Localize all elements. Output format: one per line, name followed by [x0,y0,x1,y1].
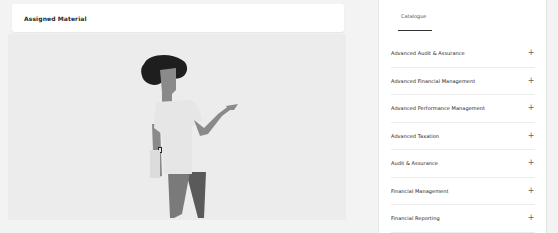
catalogue-item-financial-reporting[interactable]: Financial Reporting + [391,205,535,233]
assigned-material-header: Assigned Material [12,4,344,32]
catalogue-item-label: Financial Reporting [391,215,440,221]
page: Assigned Material [0,0,558,233]
assigned-material-title: Assigned Material [24,15,87,22]
catalogue-item-label: Advanced Performance Management [391,105,485,111]
catalogue-item-label: Advanced Taxation [391,133,439,139]
catalogue-item-label: Advanced Audit & Assurance [391,50,465,56]
plus-icon[interactable]: + [527,104,535,112]
catalogue-list: Advanced Audit & Assurance + Advanced Fi… [379,40,546,233]
catalogue-item-audit-assurance[interactable]: Audit & Assurance + [391,150,535,178]
tab-catalogue[interactable]: Catalogue [401,13,426,19]
catalogue-item-advanced-performance-management[interactable]: Advanced Performance Management + [391,95,535,123]
catalogue-item-advanced-financial-management[interactable]: Advanced Financial Management + [391,68,535,96]
catalogue-item-label: Audit & Assurance [391,160,438,166]
catalogue-tabs: Catalogue [379,0,546,40]
catalogue-panel: Catalogue Advanced Audit & Assurance + A… [378,0,547,233]
plus-icon[interactable]: + [527,77,535,85]
plus-icon[interactable]: + [527,214,535,222]
catalogue-item-label: Advanced Financial Management [391,78,475,84]
active-tab-indicator [398,30,432,31]
catalogue-item-financial-management[interactable]: Financial Management + [391,178,535,206]
catalogue-item-label: Financial Management [391,188,448,194]
catalogue-item-advanced-taxation[interactable]: Advanced Taxation + [391,123,535,151]
plus-icon[interactable]: + [527,187,535,195]
plus-icon[interactable]: + [527,132,535,140]
catalogue-item-advanced-audit-assurance[interactable]: Advanced Audit & Assurance + [391,40,535,68]
plus-icon[interactable]: + [527,159,535,167]
plus-icon[interactable]: + [527,49,535,57]
woman-presenting-illustration [130,54,250,220]
